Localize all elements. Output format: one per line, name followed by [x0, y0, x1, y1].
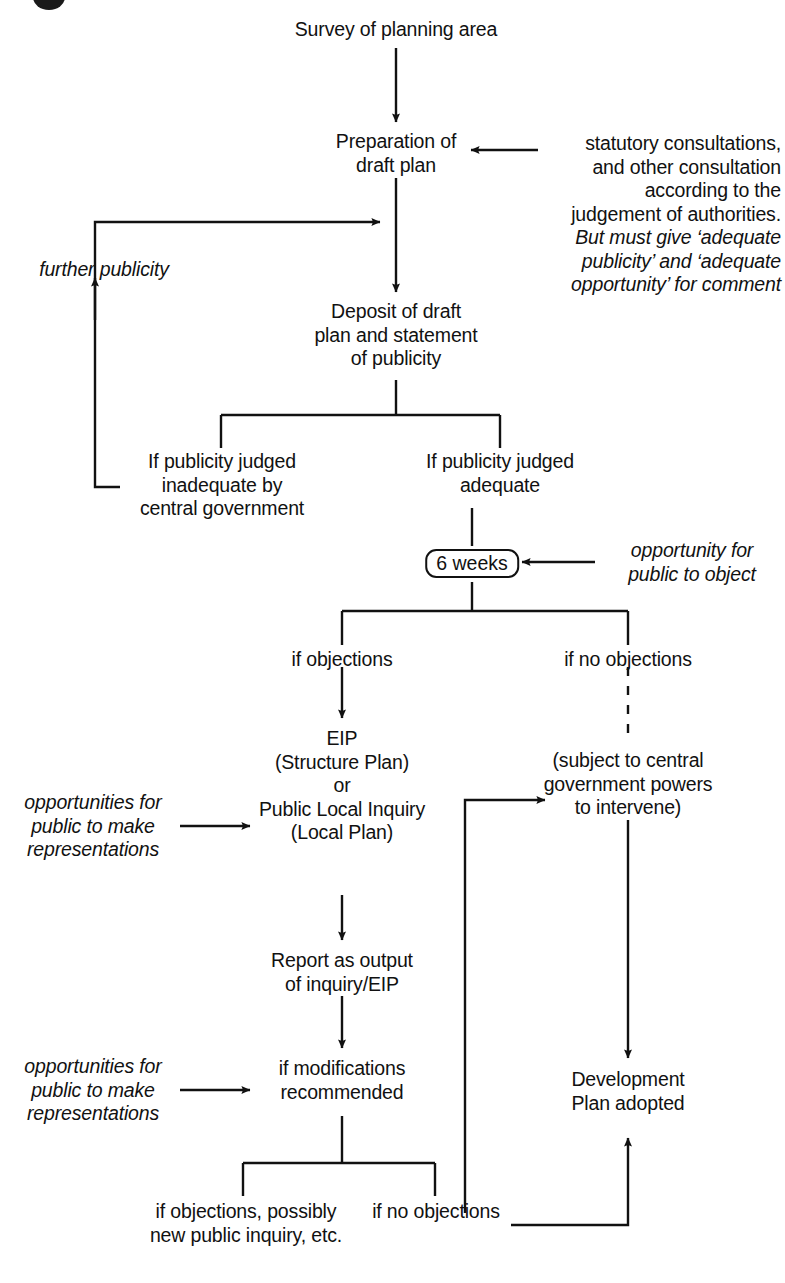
- node-if-no-objections-bottom: if no objections: [356, 1200, 516, 1224]
- annotation-statutory-consultations-upright: statutory consultations, and other consu…: [521, 132, 785, 226]
- node-six-weeks-box: 6 weeks: [425, 549, 519, 578]
- node-if-modifications-recommended: if modifications recommended: [232, 1057, 452, 1104]
- node-eip-or-public-local-inquiry: EIP (Structure Plan) or Public Local Inq…: [207, 727, 477, 845]
- annotation-opportunities-representations-2: opportunities for public to make represe…: [0, 1055, 193, 1126]
- node-if-objections-possibly-new-inquiry: if objections, possibly new public inqui…: [111, 1200, 381, 1247]
- node-deposit-of-draft-plan: Deposit of draft plan and statement of p…: [271, 300, 521, 371]
- flowchart-diagram: Survey of planning area Preparation of d…: [0, 0, 785, 1283]
- node-report-as-output: Report as output of inquiry/EIP: [227, 949, 457, 996]
- edge-no-objections-to-development: [511, 1138, 628, 1225]
- node-publicity-judged-inadequate: If publicity judged inadequate by centra…: [92, 450, 352, 521]
- annotation-statutory-consultations-italic: But must give ‘adequate publicity’ and ‘…: [519, 226, 785, 297]
- node-if-no-objections: if no objections: [528, 648, 728, 672]
- annotation-opportunity-public-to-object: opportunity for public to object: [597, 539, 785, 586]
- node-preparation-of-draft-plan: Preparation of draft plan: [286, 130, 506, 177]
- node-if-objections: if objections: [242, 648, 442, 672]
- annotation-opportunities-representations-1: opportunities for public to make represe…: [0, 791, 193, 862]
- annotation-further-publicity: further publicity: [4, 258, 204, 282]
- node-subject-to-central-government: (subject to central government powers to…: [503, 749, 753, 820]
- node-development-plan-adopted: Development Plan adopted: [528, 1068, 728, 1115]
- node-publicity-judged-adequate: If publicity judged adequate: [385, 450, 615, 497]
- edge-bottom-loop-to-subject-central: [465, 800, 545, 1213]
- node-survey: Survey of planning area: [246, 18, 546, 42]
